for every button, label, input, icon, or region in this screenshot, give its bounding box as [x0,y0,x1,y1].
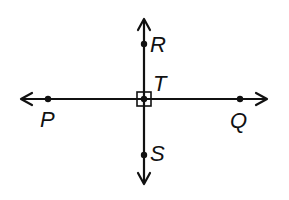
point-s [141,152,147,158]
point-p [45,96,51,102]
label-q: Q [230,108,247,133]
label-t: T [153,71,168,96]
point-r [141,41,147,47]
label-r: R [150,32,166,57]
point-t [141,96,147,102]
point-q [237,96,243,102]
label-p: P [40,107,55,132]
label-s: S [150,141,165,166]
perpendicular-lines-diagram: R T S P Q [0,0,289,200]
